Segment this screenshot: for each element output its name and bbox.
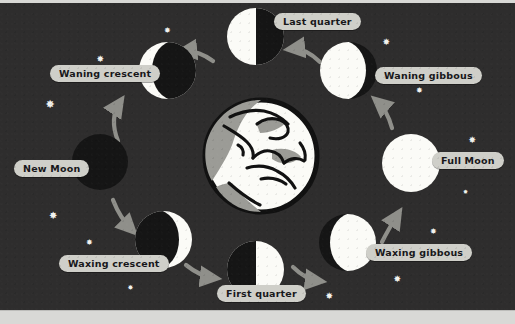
label-waxing-gibbous[interactable]: Waxing gibbous [366, 244, 472, 261]
star-icon: ✸ [326, 292, 334, 301]
arrow-waxing-crescent-to-new-moon [113, 200, 132, 230]
arrow-full-moon-to-waxing-gibbous [382, 214, 398, 242]
bottom-page-edge [0, 310, 515, 324]
star-icon: ✸ [463, 189, 468, 195]
arrow-waxing-gibbous-to-first-quarter [293, 267, 319, 281]
label-first-quarter[interactable]: First quarter [217, 285, 306, 302]
star-icon: ✸ [430, 228, 437, 236]
star-icon: ✸ [97, 55, 105, 64]
star-icon: ✸ [128, 285, 134, 292]
label-waning-crescent[interactable]: Waning crescent [50, 65, 160, 82]
star-icon: ✸ [164, 27, 171, 35]
star-icon: ✸ [394, 275, 402, 284]
star-icon: ✸ [469, 136, 477, 145]
moon-phases-diagram: Last quarter Waning gibbous Full Moon Wa… [0, 0, 515, 324]
star-icon: ✸ [416, 87, 423, 95]
arrow-last-quarter-to-waning-gibbous [291, 49, 320, 62]
moon-full-moon [382, 134, 440, 192]
label-last-quarter[interactable]: Last quarter [274, 13, 361, 30]
moon-waxing-gibbous [319, 214, 376, 271]
earth-illustration [200, 95, 322, 217]
label-waxing-crescent[interactable]: Waxing crescent [59, 255, 169, 272]
star-icon: ✸ [383, 38, 391, 47]
arrow-first-quarter-to-waxing-crescent [186, 265, 214, 278]
star-icon: ✸ [86, 239, 93, 247]
arrow-waning-gibbous-to-full-moon [377, 101, 392, 128]
star-icon: ✸ [46, 99, 55, 110]
label-waning-gibbous[interactable]: Waning gibbous [375, 67, 482, 84]
arrow-new-to-waning-crescent [114, 102, 120, 141]
top-page-edge [0, 0, 515, 3]
moon-waning-gibbous [320, 42, 377, 99]
star-icon: ✸ [49, 211, 57, 221]
label-full-moon[interactable]: Full Moon [432, 152, 504, 169]
label-new-moon[interactable]: New Moon [14, 160, 89, 177]
